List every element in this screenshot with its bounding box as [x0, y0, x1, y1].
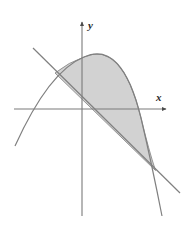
x-axis-label: x: [155, 91, 162, 103]
y-axis-label: y: [86, 19, 93, 31]
shaded-region: [55, 54, 156, 171]
figure-container: x y: [0, 0, 184, 237]
math-figure: x y: [0, 0, 184, 237]
